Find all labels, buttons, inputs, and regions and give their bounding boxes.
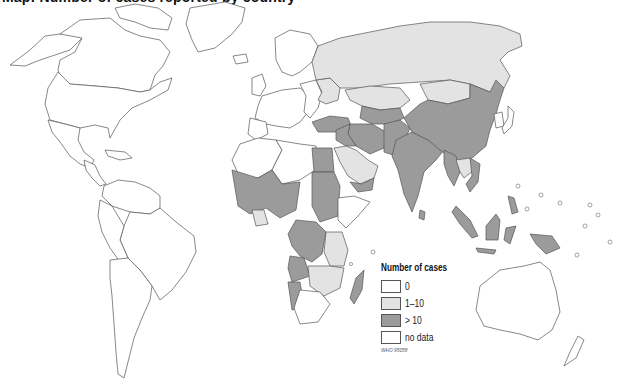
island-marker (596, 213, 600, 217)
legend-label: no data (405, 332, 433, 343)
region-korea (494, 112, 504, 128)
legend-label: 0 (405, 281, 410, 292)
legend-swatch (381, 331, 401, 344)
region-angola (288, 256, 310, 282)
legend-label: > 10 (405, 315, 422, 326)
island-marker (588, 203, 592, 207)
world-choropleth-map (0, 0, 620, 387)
legend-item-one-to-ten: 1–10 (381, 295, 471, 311)
region-madagascar (350, 270, 364, 304)
region-horn-of-africa (338, 196, 370, 228)
region-central-america (84, 160, 106, 186)
region-sumatra (452, 206, 478, 238)
island-marker (608, 240, 612, 244)
region-central-africa (288, 220, 326, 262)
island-marker (575, 253, 579, 257)
region-borneo (486, 214, 500, 240)
island-marker (539, 193, 543, 197)
legend-swatch (381, 297, 401, 310)
region-russian-federation (312, 22, 522, 92)
region-new-guinea (530, 234, 560, 254)
island-marker (516, 184, 520, 188)
region-sudan (312, 172, 340, 222)
region-java (476, 248, 496, 254)
region-kazakhstan (345, 86, 410, 110)
region-australia (476, 262, 560, 340)
island-marker (558, 201, 562, 205)
region-east-africa (324, 232, 348, 266)
region-sulawesi (504, 226, 516, 244)
region-mexico (48, 120, 94, 168)
legend-title: Number of cases (381, 262, 455, 273)
source-code: WHO 95058 (381, 347, 453, 353)
legend-swatch (381, 314, 401, 327)
island-marker (583, 224, 587, 228)
island-marker (371, 250, 375, 254)
region-japan (502, 106, 514, 134)
legend-item-no-data: no data (381, 329, 471, 345)
region-uk-ireland (252, 74, 266, 96)
region-iceland (233, 54, 248, 64)
region-egypt (312, 148, 334, 172)
region-new-zealand (564, 336, 584, 366)
region-scandinavia (275, 30, 318, 76)
region-caribbean (105, 150, 132, 160)
legend-swatch (381, 280, 401, 293)
region-philippines (508, 196, 518, 214)
region-canada (58, 18, 170, 92)
island-marker (349, 262, 352, 265)
legend: Number of cases 0 1–10 > 10 no data WHO … (381, 262, 471, 353)
island-marker (525, 207, 529, 211)
region-gulf-of-guinea-states (252, 210, 268, 226)
legend-item-zero: 0 (381, 278, 471, 294)
region-sri-lanka (419, 210, 425, 220)
region-canada-arctic-islands (115, 4, 172, 30)
region-greenland (186, 2, 245, 52)
legend-label: 1–10 (405, 298, 424, 309)
legend-item-over-ten: > 10 (381, 312, 471, 328)
